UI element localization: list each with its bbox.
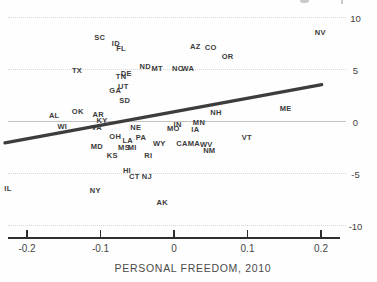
- state-label: NE: [130, 125, 141, 133]
- state-label: IN: [174, 121, 182, 129]
- state-label: GA: [109, 87, 121, 95]
- state-label: NM: [203, 147, 215, 155]
- gridline: [8, 17, 346, 18]
- x-axis-title: PERSONAL FREEDOM, 2010: [28, 262, 358, 274]
- state-label: IL: [4, 185, 11, 193]
- state-label: IA: [191, 127, 199, 135]
- state-label: SC: [94, 34, 105, 42]
- y-tick-label: -10: [344, 220, 367, 231]
- x-tick-label: -0.1: [86, 243, 116, 254]
- state-label: KS: [107, 153, 118, 161]
- state-label: CO: [205, 44, 217, 52]
- x-axis-tick: [247, 230, 249, 237]
- state-label: NJ: [142, 173, 152, 181]
- scatter-plot-personal-freedom: 1050-5-10 SCIDFLNVAZCOORTXNDMTNCWADETNUT…: [0, 0, 377, 282]
- state-label: AK: [157, 199, 168, 207]
- state-label: PA: [136, 134, 146, 142]
- state-label: NV: [315, 29, 326, 37]
- state-label: RI: [144, 153, 152, 161]
- gridline: [8, 225, 346, 226]
- state-label: MD: [91, 143, 103, 151]
- state-label: NY: [90, 187, 101, 195]
- state-label: MT: [151, 65, 162, 73]
- state-label: VT: [242, 134, 252, 142]
- state-label: TN: [116, 74, 127, 82]
- x-axis-tick: [173, 230, 175, 237]
- y-tick-label: 10: [344, 12, 367, 23]
- x-axis-tick: [26, 230, 28, 237]
- state-label: VA: [92, 125, 102, 133]
- x-axis-tick: [100, 230, 102, 237]
- x-axis-tick: [320, 230, 322, 237]
- state-label: CA: [176, 140, 187, 148]
- state-label: OR: [222, 53, 234, 61]
- gridline: [8, 173, 346, 174]
- x-axis-line: [8, 237, 340, 239]
- cropped-text-fragment: [341, 0, 343, 4]
- cropped-text-fragment: [300, 0, 309, 3]
- y-tick-label: -5: [344, 168, 367, 179]
- state-label: NH: [210, 109, 221, 117]
- x-tick-label: -0.2: [12, 243, 42, 254]
- x-tick-label: 0.1: [233, 243, 263, 254]
- state-label: CT: [129, 173, 140, 181]
- state-label: WY: [153, 140, 166, 148]
- y-tick-label: 0: [344, 116, 367, 127]
- state-label: MI: [128, 144, 137, 152]
- state-label: ND: [140, 63, 151, 71]
- state-label: AZ: [190, 43, 201, 51]
- state-label: TX: [72, 67, 82, 75]
- state-label: OH: [109, 133, 121, 141]
- y-tick-label: 5: [344, 64, 367, 75]
- x-tick-label: 0.2: [306, 243, 336, 254]
- x-tick-label: 0: [159, 243, 189, 254]
- state-label: ME: [280, 105, 292, 113]
- state-label: WA: [182, 65, 195, 73]
- state-label: FL: [116, 45, 126, 53]
- state-label: SD: [119, 97, 130, 105]
- state-label: OK: [72, 108, 84, 116]
- state-label: WI: [57, 123, 67, 131]
- state-label: AL: [49, 112, 60, 120]
- state-label: MA: [188, 140, 200, 148]
